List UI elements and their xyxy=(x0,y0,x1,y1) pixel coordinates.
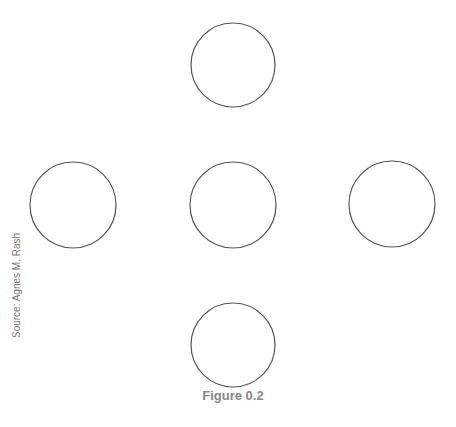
source-credit: Source: Agnes M. Rash xyxy=(11,233,22,338)
circle-top xyxy=(191,23,275,107)
circle-center xyxy=(190,162,276,248)
circle-bottom xyxy=(191,303,275,387)
circle-left xyxy=(30,162,116,248)
circle-diagram xyxy=(0,0,456,427)
figure-caption: Figure 0.2 xyxy=(0,388,456,403)
circle-right xyxy=(349,161,435,247)
